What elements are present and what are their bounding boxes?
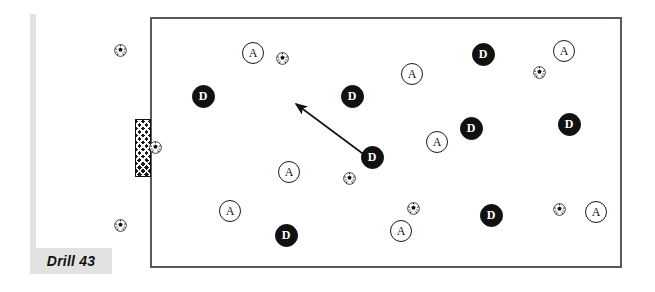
player-marker-label: A xyxy=(433,136,442,148)
player-marker-label: D xyxy=(282,229,291,241)
soccer-ball-icon xyxy=(114,44,127,57)
player-marker-defender[interactable]: D xyxy=(192,85,215,108)
left-accent-rule xyxy=(30,14,36,260)
player-marker-attacker[interactable]: A xyxy=(390,220,412,242)
player-marker-label: D xyxy=(368,151,377,163)
player-marker-label: A xyxy=(408,68,417,80)
player-marker-defender[interactable]: D xyxy=(275,224,298,247)
player-marker-label: D xyxy=(565,118,574,130)
drill-label-text: Drill 43 xyxy=(47,253,95,269)
player-marker-label: D xyxy=(487,209,496,221)
player-marker-label: D xyxy=(199,90,208,102)
player-marker-defender[interactable]: D xyxy=(558,113,581,136)
soccer-ball-icon xyxy=(149,141,162,154)
soccer-ball-icon xyxy=(407,202,420,215)
player-marker-label: A xyxy=(592,206,601,218)
soccer-ball-icon xyxy=(553,203,566,216)
player-marker-defender[interactable]: D xyxy=(480,204,503,227)
player-marker-defender[interactable]: D xyxy=(361,146,384,169)
drill-label-band: Drill 43 xyxy=(30,248,112,274)
player-marker-attacker[interactable]: A xyxy=(585,201,607,223)
field-rectangle xyxy=(150,17,622,268)
player-marker-label: D xyxy=(348,90,357,102)
player-marker-label: A xyxy=(397,225,406,237)
player-marker-defender[interactable]: D xyxy=(472,43,495,66)
soccer-ball-icon xyxy=(533,66,546,79)
soccer-ball-icon xyxy=(276,52,289,65)
player-marker-attacker[interactable]: A xyxy=(401,63,423,85)
player-marker-label: A xyxy=(249,47,258,59)
player-marker-attacker[interactable]: A xyxy=(426,131,448,153)
drill-diagram-root: Drill 43 ADADDADDADAADADA xyxy=(0,0,655,292)
player-marker-attacker[interactable]: A xyxy=(278,161,300,183)
player-marker-label: D xyxy=(467,122,476,134)
player-marker-defender[interactable]: D xyxy=(341,85,364,108)
soccer-ball-icon xyxy=(114,219,127,232)
player-marker-label: A xyxy=(560,45,569,57)
soccer-ball-icon xyxy=(343,172,356,185)
player-marker-label: A xyxy=(285,166,294,178)
player-marker-label: D xyxy=(479,48,488,60)
player-marker-attacker[interactable]: A xyxy=(553,40,575,62)
player-marker-attacker[interactable]: A xyxy=(242,42,264,64)
player-marker-attacker[interactable]: A xyxy=(219,200,241,222)
player-marker-defender[interactable]: D xyxy=(460,117,483,140)
player-marker-label: A xyxy=(226,205,235,217)
